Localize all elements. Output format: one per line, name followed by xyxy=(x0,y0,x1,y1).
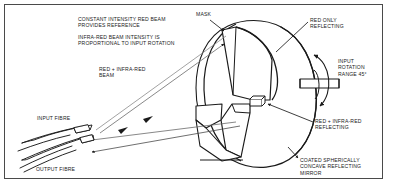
label-infrared-intensity: INFRA-RED BEAM INTENSITY IS PROPORTIONAL… xyxy=(78,34,175,47)
beam-arrow-heads xyxy=(118,116,153,134)
mask-leader xyxy=(210,20,224,31)
label-coated-mirror: COATED SPHERICALLY CONCAVE REFLECTING MI… xyxy=(300,157,361,176)
input-fibre-ferrule xyxy=(74,125,90,133)
output-fibre-ferrule xyxy=(80,135,94,143)
beam-arrowhead-a xyxy=(118,127,128,134)
label-output-fibre: OUTPUT FIBRE xyxy=(36,166,75,172)
fibre-strand-upper-1 xyxy=(18,135,70,151)
mask-leader-line xyxy=(210,20,224,31)
beam-arrowhead-b xyxy=(143,116,153,123)
label-red-infrared-reflecting: RED + INFRA-RED REFLECTING xyxy=(315,118,362,131)
label-constant-intensity: CONSTANT INTENSITY RED BEAM PROVIDES REF… xyxy=(78,16,166,29)
label-red-only-reflecting: RED ONLY REFLECTING xyxy=(310,17,344,30)
label-red-infrared-beam: RED + INFRA-RED BEAM xyxy=(99,66,146,79)
label-input-rotation-range: INPUT ROTATION RANGE 45° xyxy=(338,58,367,77)
label-mask: MASK xyxy=(196,11,211,17)
label-input-fibre: INPUT FIBRE xyxy=(37,115,70,121)
figure-canvas: CONSTANT INTENSITY RED BEAM PROVIDES REF… xyxy=(0,0,400,189)
mask-notch-block xyxy=(250,96,265,106)
notch-rect xyxy=(250,99,262,106)
fibre-bundle xyxy=(18,125,94,172)
